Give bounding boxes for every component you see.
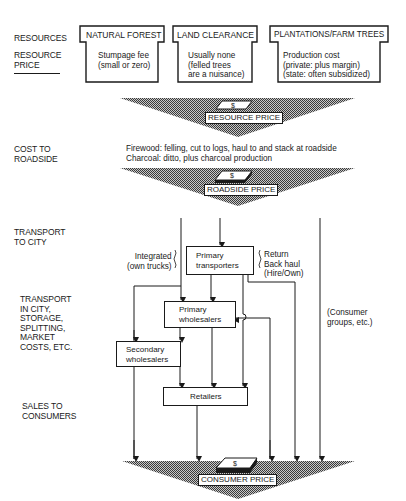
primary-wholesalers-label: Primary wholesalers	[179, 305, 221, 324]
resource-plantations-title: PLANTATIONS/FARM TREES	[274, 30, 384, 39]
return-backhaul-note: Return Back haul (Hire/Own)	[264, 250, 304, 279]
primary-transporters-label: Primary transporters	[196, 251, 239, 270]
roadside-price-label: ROADSIDE PRICE	[204, 184, 278, 196]
svg-text:$: $	[231, 102, 235, 109]
roadside-costs-text: Firewood: felling, cut to logs, haul to …	[126, 144, 337, 163]
resource-plantations-price: Production cost (private: plus margin) (…	[283, 51, 370, 80]
primary-transporters-box: Primary transporters	[186, 246, 254, 275]
resource-natural-forest-title: NATURAL FOREST	[86, 30, 162, 40]
retailers-box: Retailers	[163, 387, 248, 406]
retailers-label: Retailers	[190, 392, 222, 402]
secondary-wholesalers-box: Secondary wholesalers	[116, 341, 181, 367]
resource-natural-forest-price: Stumpage fee (small or zero)	[98, 51, 150, 70]
consumer-groups-note: (Consumer groups, etc.)	[327, 308, 373, 327]
resource-price-label: RESOURCE PRICE	[205, 112, 283, 124]
resource-land-clearance-title: LAND CLEARANCE	[177, 30, 254, 40]
dollar-bill-icon: $	[216, 458, 257, 473]
integrated-note: Integrated (own trucks)	[127, 252, 172, 271]
resource-land-clearance-price: Usually none (felled trees are a nuisanc…	[188, 51, 244, 80]
dollar-bill-icon: $	[216, 101, 252, 109]
primary-wholesalers-box: Primary wholesalers	[164, 301, 236, 328]
consumer-price-label: CONSUMER PRICE	[198, 474, 277, 486]
secondary-wholesalers-label: Secondary wholesalers	[126, 345, 168, 364]
svg-text:$: $	[230, 172, 234, 179]
svg-text:$: $	[233, 460, 237, 467]
